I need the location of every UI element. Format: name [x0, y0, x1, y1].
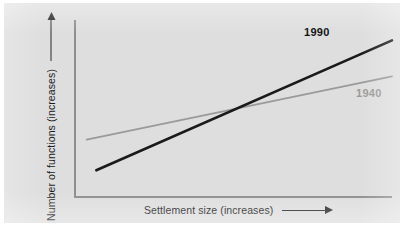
- series-label-1990: 1990: [304, 26, 330, 38]
- up-arrow-icon: [51, 19, 52, 61]
- right-arrow-icon: [282, 210, 326, 211]
- x-axis-label: Settlement size (increases): [144, 204, 273, 216]
- y-axis-label-group: Number of functions (increases): [38, 19, 64, 197]
- chart-plate: 1990 1940 Number of functions (increases…: [4, 3, 400, 223]
- y-axis-label: Number of functions (increases): [45, 69, 57, 221]
- x-axis-label-group: Settlement size (increases): [144, 204, 326, 216]
- series-line-1990: [96, 40, 392, 170]
- series-label-1940: 1940: [356, 87, 382, 99]
- chart-figure: 1990 1940 Number of functions (increases…: [0, 0, 404, 228]
